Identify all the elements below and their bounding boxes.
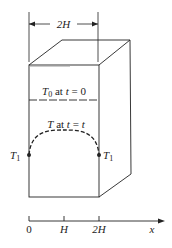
axis-arrow-icon	[158, 219, 165, 224]
boundary-point-left	[27, 153, 31, 157]
dimension-label: 2H	[57, 18, 72, 30]
right-face	[99, 40, 131, 197]
tick-label-2H: 2H	[92, 223, 107, 235]
boundary-temp-right: T1	[103, 149, 113, 163]
axis-variable-label: x	[149, 223, 155, 235]
boundary-temp-left: T1	[10, 149, 20, 163]
initial-temperature-label: T0 at t = 0	[42, 85, 86, 99]
boundary-point-right	[97, 153, 101, 157]
top-face	[29, 40, 130, 65]
temperature-profile-curve	[29, 130, 99, 155]
slab-diagram: 2H T0 at t = 0 T at t = t T1 T1 0 H 2H x	[0, 0, 172, 248]
temperature-profile-label: T at t = t	[47, 118, 85, 130]
tick-label-H: H	[59, 223, 69, 235]
tick-label-0: 0	[26, 223, 32, 235]
